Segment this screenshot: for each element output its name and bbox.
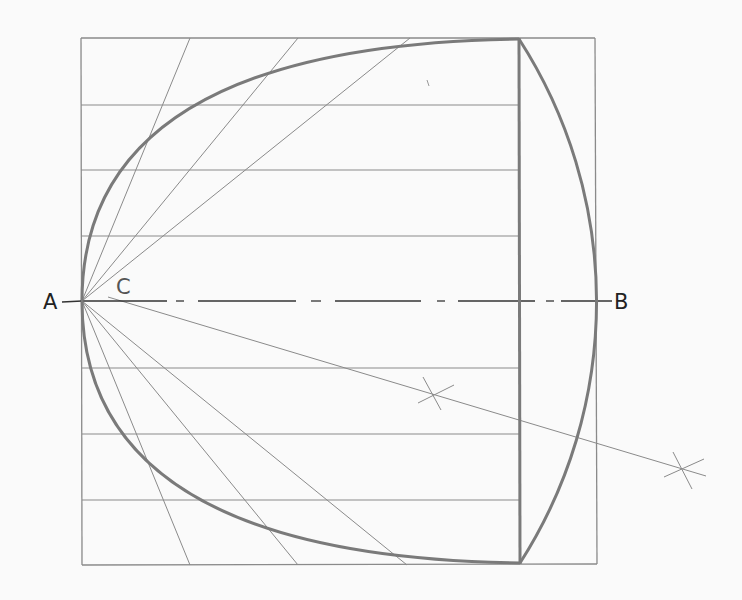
cross-mark bbox=[664, 452, 704, 489]
label-c: C bbox=[116, 275, 131, 299]
construction-diagram: A B C bbox=[0, 0, 742, 600]
bisector-construction bbox=[108, 297, 706, 489]
label-b: B bbox=[614, 290, 628, 314]
bisector-line bbox=[108, 297, 706, 476]
vertical-chord bbox=[519, 38, 520, 564]
ray bbox=[82, 301, 190, 565]
ray bbox=[82, 301, 298, 565]
label-a: A bbox=[43, 290, 58, 314]
axis-centre-line bbox=[62, 301, 612, 302]
ray bbox=[82, 301, 407, 565]
speck-mark bbox=[427, 80, 429, 86]
cross-mark bbox=[418, 377, 454, 410]
horizontal-division-lines bbox=[81, 105, 519, 500]
